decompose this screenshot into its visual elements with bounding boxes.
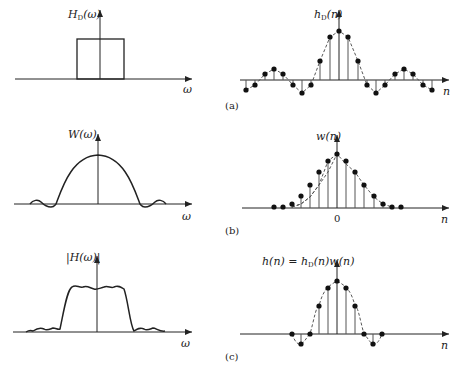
hd-omega-label: HD(ω) [67, 8, 101, 22]
caption-c: (c) [225, 351, 239, 362]
caption-a: (a) [225, 100, 239, 111]
panel-b-left-window-spectrum: W(ω) ω [14, 128, 192, 223]
panel-c-left-windowed-response: |H(ω)| ω [13, 251, 192, 350]
hd-n-label: hD(n) [314, 8, 342, 22]
omega-label: ω [183, 83, 192, 96]
w-n-label: w(n) [316, 130, 341, 143]
caption-b: (b) [225, 225, 239, 236]
fir-window-design-figure: HD(ω) ω hD(n) n (a) W(ω) ω [0, 0, 457, 374]
panel-b-right-window-sequence: w(n) 0 n [242, 130, 449, 226]
panel-c-right-windowed-impulse: h(n) = hD(n)w(n) n [240, 255, 449, 352]
n-label: n [441, 213, 448, 226]
w-omega-label: W(ω) [68, 128, 97, 141]
omega-label: ω [181, 337, 190, 350]
panel-a-right-ideal-impulse: hD(n) n [240, 8, 450, 98]
n-label: n [443, 85, 450, 98]
windowed-magnitude-curve [26, 286, 165, 332]
omega-label: ω [182, 210, 191, 223]
panel-a-left-ideal-response: HD(ω) ω [15, 8, 192, 96]
n-label: n [441, 339, 448, 352]
abs-h-omega-label: |H(ω)| [66, 251, 101, 265]
h-n-equation-label: h(n) = hD(n)w(n) [262, 255, 354, 269]
origin-tick-label: 0 [334, 213, 340, 224]
